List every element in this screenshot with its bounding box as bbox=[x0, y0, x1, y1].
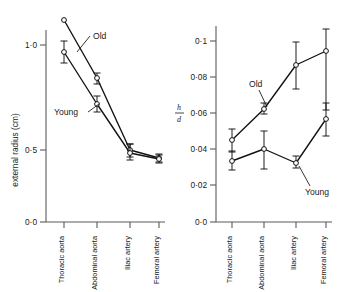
y-tick-label: 0·06 bbox=[190, 108, 207, 118]
y-tick-label: 0·1 bbox=[195, 36, 207, 46]
y-tick-label: 0·0 bbox=[25, 217, 37, 227]
annotation-leader-old bbox=[77, 36, 90, 52]
error-bars-old bbox=[229, 29, 330, 152]
annotation-label-old: Old bbox=[249, 79, 263, 89]
y-tick-label: 0·08 bbox=[190, 72, 207, 82]
y-tick-label: 0·5 bbox=[25, 145, 37, 155]
y-axis-title-left: external radius (cm) bbox=[10, 113, 20, 187]
y-axis-title-denominator: d bbox=[177, 115, 182, 124]
x-category-label: Iliac artery bbox=[289, 236, 298, 270]
y-ticks-left bbox=[40, 45, 46, 222]
x-category-label: Abdominal aorta bbox=[257, 235, 266, 290]
error-bars-young bbox=[61, 41, 163, 162]
annotation-leader-old bbox=[259, 90, 267, 107]
markers-young bbox=[230, 117, 329, 166]
y-axis-title-numerator: h bbox=[177, 103, 181, 112]
x-category-label: Abdominal aorta bbox=[90, 235, 99, 290]
chart-panel-right: 0·1 0·08 0·06 0·04 0·02 0·0 h d Thoracic… bbox=[172, 0, 344, 292]
x-category-label: Thoracic aorta bbox=[57, 235, 66, 283]
series-line-old bbox=[64, 20, 159, 158]
x-category-label: Thoracic aorta bbox=[225, 235, 234, 283]
y-tick-label: 0·04 bbox=[190, 144, 207, 154]
x-ticks-left bbox=[64, 222, 159, 228]
annotation-leader-young bbox=[299, 166, 310, 186]
x-category-label: Femoral artery bbox=[152, 236, 161, 284]
chart-panel-left: 1·0 0·5 0·0 external radius (cm) Thoraci… bbox=[0, 0, 172, 292]
annotation-label-young: Young bbox=[54, 107, 78, 117]
y-tick-label: 1·0 bbox=[25, 40, 37, 50]
series-line-old bbox=[232, 51, 326, 140]
annotation-label-old: Old bbox=[93, 31, 107, 41]
y-ticks-right bbox=[210, 41, 216, 222]
annotation-label-young: Young bbox=[305, 187, 329, 197]
markers-young bbox=[62, 50, 162, 162]
y-tick-label: 0·0 bbox=[195, 217, 207, 227]
x-category-label: Iliac artery bbox=[123, 236, 132, 270]
x-category-label: Femoral artery bbox=[319, 236, 328, 284]
y-tick-label: 0·02 bbox=[190, 180, 207, 190]
markers-old bbox=[62, 18, 162, 161]
y-axis-title-right: h d bbox=[175, 103, 184, 124]
x-ticks-right bbox=[232, 222, 326, 228]
figure-container: 1·0 0·5 0·0 external radius (cm) Thoraci… bbox=[0, 0, 344, 292]
series-line-young bbox=[64, 52, 159, 159]
